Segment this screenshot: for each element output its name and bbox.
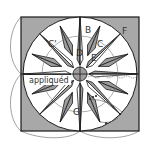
label-C: C — [97, 39, 103, 49]
label-C-prime: C' — [48, 39, 57, 49]
label-D: D — [76, 48, 83, 58]
label-appliqued: appliquéd — [29, 75, 69, 85]
compass-diagram-svg: B C' C D E F G appliquéd — [0, 0, 145, 147]
label-E: E — [91, 53, 97, 63]
label-G: G — [73, 107, 80, 117]
label-F: F — [122, 26, 127, 36]
label-B: B — [85, 25, 91, 35]
quilt-diagram: B C' C D E F G appliquéd — [0, 0, 145, 147]
